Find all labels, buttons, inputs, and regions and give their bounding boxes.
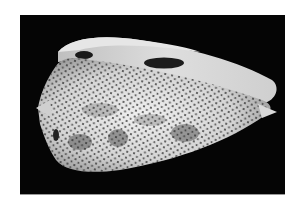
aperture-hole bbox=[144, 58, 184, 69]
cone-shell-image bbox=[0, 0, 301, 208]
aperture-hole bbox=[75, 51, 93, 59]
